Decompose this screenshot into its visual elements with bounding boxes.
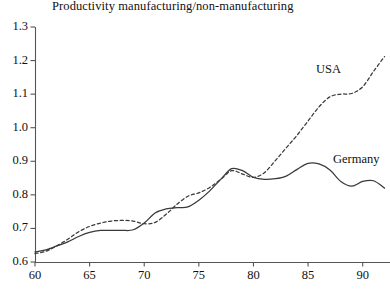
y-axis-ticks	[31, 27, 36, 262]
y-axis-tick-label: 1.1	[0, 86, 28, 101]
x-axis-tick-label: 80	[233, 268, 273, 283]
series-label-usa: USA	[316, 62, 341, 77]
x-axis-tick-label: 65	[70, 268, 110, 283]
series-label-germany: Germany	[333, 152, 380, 167]
x-axis-tick-label: 60	[15, 268, 55, 283]
y-axis-tick-label: 1.2	[0, 53, 28, 68]
y-axis-tick-label: 1.0	[0, 120, 28, 135]
y-axis-tick-label: 0.8	[0, 187, 28, 202]
x-axis-tick-label: 75	[179, 268, 219, 283]
chart-plot-area	[0, 0, 390, 294]
x-axis-tick-label: 85	[288, 268, 328, 283]
series-line-germany	[35, 163, 385, 252]
chart-figure: Productivity manufacturing/non-manufactu…	[0, 0, 390, 294]
y-axis-tick-label: 0.7	[0, 220, 28, 235]
y-axis-tick-label: 1.3	[0, 19, 28, 34]
y-axis-tick-label: 0.9	[0, 153, 28, 168]
y-axis-tick-label: 0.6	[0, 254, 28, 269]
x-axis-tick-label: 70	[124, 268, 164, 283]
x-axis-tick-label: 90	[343, 268, 383, 283]
